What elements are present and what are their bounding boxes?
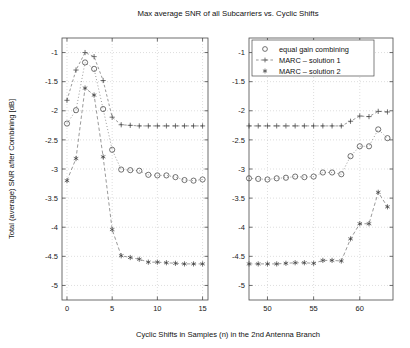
series-plus — [64, 50, 205, 129]
x-tick-label: 55 — [309, 304, 317, 313]
series-plus — [246, 109, 390, 129]
marker-circle — [376, 127, 381, 132]
legend-label-1: MARC – solution 1 — [279, 56, 341, 65]
marker-circle — [101, 106, 106, 111]
y-tick-label: -3 — [238, 165, 245, 174]
series-circle — [246, 127, 390, 182]
series-asterisk — [247, 190, 390, 267]
y-tick-label: -1 — [51, 48, 58, 57]
legend-label-2: MARC – solution 2 — [279, 67, 341, 76]
y-tick-label: -5 — [51, 281, 58, 290]
series-line — [67, 88, 203, 264]
x-tick-label: 5 — [110, 304, 114, 313]
x-tick-label: 50 — [263, 304, 271, 313]
y-tick-label: -4 — [51, 223, 58, 232]
left-panel: 051015-1-1.5-2-2.5-3-3.5-4-4.5-5 — [45, 38, 208, 313]
y-tick-label: -2.5 — [45, 136, 58, 145]
y-tick-label: -1.5 — [45, 77, 58, 86]
chart-title: Max average SNR of all Subcarriers vs. C… — [137, 9, 318, 18]
chart-svg: Max average SNR of all Subcarriers vs. C… — [0, 0, 410, 348]
series-asterisk — [65, 85, 205, 266]
series-line — [249, 192, 387, 264]
y-tick-label: -4.5 — [232, 252, 245, 261]
series-line — [249, 111, 387, 126]
series-line — [249, 129, 387, 179]
y-tick-label: -2.5 — [232, 136, 245, 145]
y-tick-label: -4.5 — [45, 252, 58, 261]
marker-circle — [256, 176, 261, 181]
y-tick-label: -1 — [238, 48, 245, 57]
right-panel: 505560-1-1.5-2-2.5-3-3.5-4-4.5-5 — [232, 38, 393, 313]
y-tick-label: -5 — [238, 281, 245, 290]
series-circle — [64, 60, 205, 183]
figure-canvas: Max average SNR of all Subcarriers vs. C… — [0, 0, 410, 348]
y-tick-label: -2 — [51, 106, 58, 115]
y-tick-label: -3.5 — [45, 194, 58, 203]
chart-legend: equal gain combiningMARC – solution 1MAR… — [252, 40, 374, 76]
marker-circle — [320, 170, 325, 175]
y-tick-label: -4 — [238, 223, 245, 232]
marker-circle — [119, 167, 124, 172]
marker-circle — [348, 154, 353, 159]
x-tick-label: 60 — [356, 304, 364, 313]
y-axis-label: Total (average) SNR after Combining [dB] — [7, 99, 16, 239]
y-tick-label: -2 — [238, 106, 245, 115]
x-tick-label: 15 — [198, 304, 206, 313]
series-line — [67, 62, 203, 180]
y-tick-label: -3 — [51, 165, 58, 174]
marker-circle — [91, 66, 96, 71]
x-axis-label: Cyclic Shifts in Samples (n) in the 2nd … — [136, 330, 320, 339]
legend-label-0: equal gain combining — [279, 45, 349, 54]
marker-circle — [173, 175, 178, 180]
x-tick-label: 10 — [153, 304, 161, 313]
marker-circle — [302, 175, 307, 180]
y-tick-label: -1.5 — [232, 77, 245, 86]
y-tick-label: -3.5 — [232, 194, 245, 203]
x-tick-label: 0 — [65, 304, 69, 313]
